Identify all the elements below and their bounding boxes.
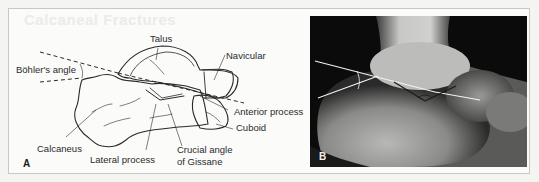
cuboid-outline [192,95,228,129]
talus-outline [118,46,233,98]
label-lateral-process: Lateral process [90,154,155,165]
label-anterior-process: Anterior process [234,106,303,117]
label-navicular: Navicular [226,50,266,61]
label-crucial-angle-2: of Gissane [177,156,222,167]
label-bohlers-angle: Böhler's angle [16,64,76,75]
label-crucial-angle-1: Crucial angle [177,144,232,155]
xray-image [310,16,527,167]
panel-b-letter: B [319,151,326,162]
label-cuboid: Cuboid [236,122,266,133]
bohler-line-lower [40,78,82,82]
label-talus: Talus [150,33,172,44]
label-calcaneus: Calcaneus [37,143,82,154]
panel-b-radiograph: B [310,16,527,167]
panel-a-letter: A [23,158,30,169]
